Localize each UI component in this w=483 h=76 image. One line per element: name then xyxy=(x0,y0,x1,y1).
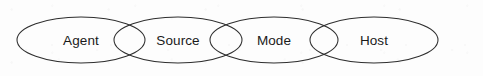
node-label-host: Host xyxy=(360,33,388,48)
diagram-canvas: Agent Source Mode Host xyxy=(0,0,483,76)
ellipse-chain-diagram: Agent Source Mode Host xyxy=(0,0,483,76)
node-label-mode: Mode xyxy=(257,33,291,48)
node-label-source: Source xyxy=(156,33,199,48)
node-label-agent: Agent xyxy=(63,33,99,48)
